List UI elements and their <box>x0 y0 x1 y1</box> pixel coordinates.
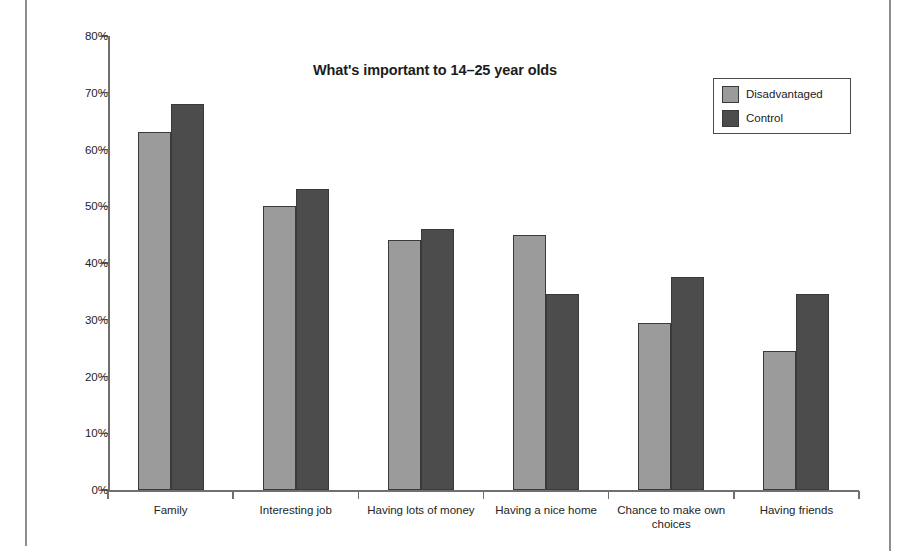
bar <box>638 323 671 490</box>
legend-item-disadvantaged: Disadvantaged <box>722 85 823 103</box>
x-axis-category-label: Family <box>108 503 233 517</box>
bar <box>546 294 579 490</box>
bar <box>421 229 454 490</box>
y-axis-tick-label: 80% <box>50 30 108 42</box>
x-axis-tick-mark <box>608 491 609 499</box>
bar-chart: What's important to 14–25 year olds 0%10… <box>0 0 904 551</box>
x-axis-tick-mark <box>107 491 108 499</box>
x-axis-tick-mark <box>733 491 734 499</box>
y-axis-tick-label: 10% <box>50 427 108 439</box>
x-axis-tick-mark <box>358 491 359 499</box>
bar <box>263 206 296 490</box>
y-axis-tick-label: 70% <box>50 87 108 99</box>
legend-item-control: Control <box>722 109 783 127</box>
bar <box>171 104 204 490</box>
legend-swatch-icon <box>722 86 739 103</box>
bar <box>796 294 829 490</box>
chart-title: What's important to 14–25 year olds <box>250 62 620 78</box>
x-axis-category-label: Having lots of money <box>358 503 483 517</box>
x-axis-category-label: Interesting job <box>233 503 358 517</box>
y-axis-line <box>108 36 110 491</box>
bar <box>513 235 546 490</box>
legend-swatch-icon <box>722 110 739 127</box>
chart-legend: Disadvantaged Control <box>713 78 851 134</box>
x-axis-category-label: Having a nice home <box>484 503 609 517</box>
x-axis-tick-mark <box>483 491 484 499</box>
legend-label: Control <box>746 112 783 124</box>
y-axis-tick-label: 20% <box>50 371 108 383</box>
y-axis-tick-label: 60% <box>50 144 108 156</box>
y-axis-tick-label: 0% <box>50 484 108 496</box>
legend-label: Disadvantaged <box>746 88 823 100</box>
bar <box>671 277 704 490</box>
x-axis-tick-mark <box>232 491 233 499</box>
y-axis-tick-label: 40% <box>50 257 108 269</box>
x-axis-category-label: Chance to make own choices <box>609 503 734 531</box>
x-axis-tick-mark <box>858 491 859 499</box>
x-axis-category-label: Having friends <box>734 503 859 517</box>
y-axis-tick-label: 30% <box>50 314 108 326</box>
page-canvas: What's important to 14–25 year olds 0%10… <box>0 0 904 551</box>
bar <box>296 189 329 490</box>
bar <box>138 132 171 490</box>
bar <box>388 240 421 490</box>
bar <box>763 351 796 490</box>
y-axis-tick-label: 50% <box>50 200 108 212</box>
